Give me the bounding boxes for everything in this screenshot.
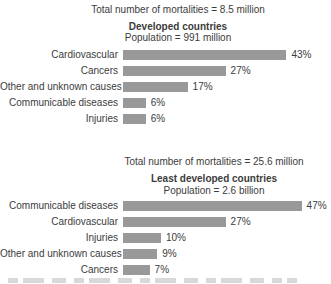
value-label: 7% [155, 264, 169, 276]
bar-row: Cancers 7% [0, 262, 331, 278]
bar [123, 50, 286, 60]
bar-row: Cardiovascular 43% [0, 47, 331, 63]
bar-row: Cardiovascular 27% [0, 214, 331, 230]
category-label: Cardiovascular [0, 49, 118, 61]
value-label: 47% [307, 200, 327, 212]
bar [123, 114, 146, 124]
bar [123, 249, 157, 259]
value-label: 6% [151, 113, 165, 125]
value-label: 17% [193, 81, 213, 93]
category-label: Injuries [0, 113, 118, 125]
category-label: Cardiovascular [0, 216, 118, 228]
category-label: Injuries [0, 232, 118, 244]
value-label: 10% [166, 232, 186, 244]
bar [123, 201, 302, 211]
value-label: 9% [162, 248, 176, 260]
chart1-population-subtitle: Population = 991 million [125, 32, 231, 44]
chart2-title: Least developed countries [151, 173, 277, 185]
bar-row: Communicable diseases 47% [0, 198, 331, 214]
chart2-population-subtitle: Population = 2.6 billion [164, 185, 265, 197]
bar [123, 98, 146, 108]
value-label: 27% [231, 65, 251, 77]
value-label: 27% [231, 216, 251, 228]
value-label: 6% [151, 97, 165, 109]
category-label: Other and unknown causes [0, 81, 118, 93]
bar-row: Other and unknown causes 17% [0, 79, 331, 95]
bar [123, 217, 226, 227]
cropped-caption-top-edge [8, 278, 297, 283]
chart1-bars: Cardiovascular 43% Cancers 27% Other and… [0, 47, 331, 127]
bar [123, 265, 150, 275]
bar-row: Cancers 27% [0, 63, 331, 79]
category-label: Cancers [0, 65, 118, 77]
chart1-total-mortalities-annotation: Total number of mortalities = 8.5 millio… [91, 4, 265, 16]
category-label: Other and unknown causes [0, 248, 118, 260]
category-label: Cancers [0, 264, 118, 276]
mortality-comparison-figure: Total number of mortalities = 8.5 millio… [0, 0, 331, 284]
bar-row: Communicable diseases 6% [0, 95, 331, 111]
bar [123, 233, 161, 243]
category-label: Communicable diseases [0, 97, 118, 109]
bar-row: Injuries 6% [0, 111, 331, 127]
bar [123, 82, 188, 92]
bar-row: Injuries 10% [0, 230, 331, 246]
chart2-bars: Communicable diseases 47% Cardiovascular… [0, 198, 331, 278]
value-label: 43% [291, 49, 311, 61]
bar [123, 66, 226, 76]
bar-row: Other and unknown causes 9% [0, 246, 331, 262]
category-label: Communicable diseases [0, 200, 118, 212]
chart2-total-mortalities-annotation: Total number of mortalities = 25.6 milli… [124, 156, 303, 168]
